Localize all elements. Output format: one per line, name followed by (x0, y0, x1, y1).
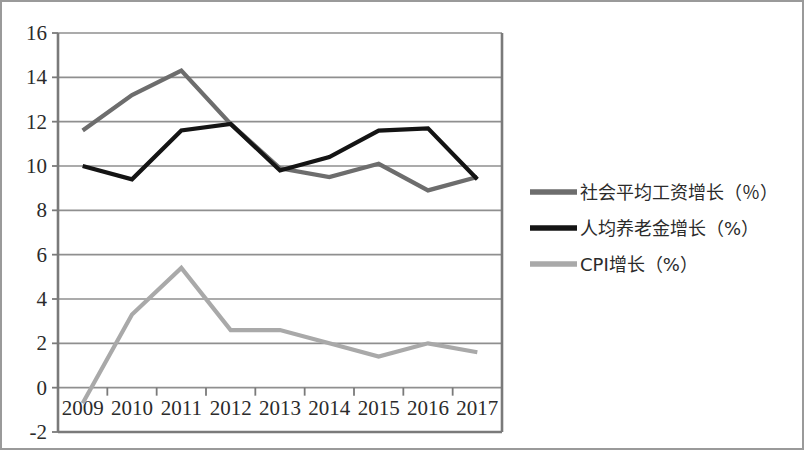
plot-area: 1614121086420-22009201020112012201320142… (2, 2, 804, 450)
y-axis-label: 4 (37, 287, 48, 311)
x-axis-label: 2014 (308, 396, 351, 420)
chart-container: 1614121086420-22009201020112012201320142… (0, 0, 804, 450)
y-axis-label: 14 (26, 65, 48, 89)
x-axis-label: 2010 (111, 396, 153, 420)
y-axis-label: 8 (37, 198, 48, 222)
x-axis-label: 2016 (407, 396, 449, 420)
y-axis-label: 2 (37, 331, 48, 355)
x-axis-label: 2012 (210, 396, 252, 420)
y-axis-label: 0 (37, 376, 48, 400)
legend-label: CPI增长（%） (580, 254, 698, 275)
line-chart: 1614121086420-22009201020112012201320142… (2, 2, 804, 450)
series-line (83, 124, 478, 179)
series-line (83, 268, 478, 403)
legend-label: 社会平均工资增长（％） (580, 182, 778, 203)
y-axis-label: -2 (30, 420, 48, 444)
y-axis-label: 10 (26, 154, 47, 178)
x-axis-label: 2011 (161, 396, 202, 420)
legend-label: 人均养老金增长（%） (580, 218, 759, 239)
x-axis-label: 2015 (358, 396, 400, 420)
x-axis-label: 2013 (259, 396, 301, 420)
y-axis-label: 16 (26, 21, 47, 45)
y-axis-label: 6 (37, 243, 48, 267)
y-axis-label: 12 (26, 110, 47, 134)
x-axis-label: 2017 (456, 396, 498, 420)
